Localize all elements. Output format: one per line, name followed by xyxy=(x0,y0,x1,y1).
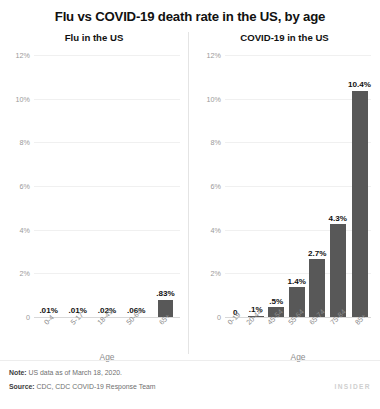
x-tick-label: 55-64 xyxy=(288,320,309,350)
note-text: US data as of March 18, 2020. xyxy=(27,369,122,376)
bars-covid: 0.1%.5%1.4%2.7%4.3%10.4% xyxy=(225,56,371,318)
source-text: CDC, CDC COVID-19 Response Team xyxy=(35,383,156,390)
y-tick-label: 0 xyxy=(217,314,221,322)
chart-panel-covid: COVID-19 in the US 02%4%6%8%10%12% 0.1%.… xyxy=(189,30,380,360)
charts-container: Flu in the US 02%4%6%8%10%12% .01%.01%.0… xyxy=(0,30,380,360)
chart-subtitle-flu: Flu in the US xyxy=(0,30,188,44)
bar-group[interactable]: 0 xyxy=(225,56,246,318)
bar-group[interactable]: .06% xyxy=(122,56,151,318)
bar-value-label: 2.7% xyxy=(308,249,326,258)
y-tick-label: 12% xyxy=(16,52,30,60)
bar-group[interactable]: 2.7% xyxy=(307,56,328,318)
bar-group[interactable]: .1% xyxy=(246,56,267,318)
x-tick-label: 18-49 xyxy=(92,320,121,350)
y-tick-label: 8% xyxy=(20,139,30,147)
x-tick-label: 5-17 xyxy=(63,320,92,350)
bar[interactable] xyxy=(330,224,346,318)
x-tick-label: 85+ xyxy=(350,320,371,350)
bar-group[interactable]: .5% xyxy=(266,56,287,318)
bar-group[interactable]: .83% xyxy=(151,56,180,318)
bar-group[interactable]: 1.4% xyxy=(287,56,308,318)
note-label: Note: xyxy=(9,369,27,376)
y-tick-label: 6% xyxy=(211,183,221,191)
bar-group[interactable]: .01% xyxy=(63,56,92,318)
x-tick-label: 65-74 xyxy=(308,320,329,350)
y-tick-label: 10% xyxy=(207,96,221,104)
bar[interactable] xyxy=(352,91,368,318)
y-tick-label: 4% xyxy=(20,227,30,235)
source-line: Source: CDC, CDC COVID-19 Response Team xyxy=(9,382,156,391)
note-line: Note: US data as of March 18, 2020. xyxy=(9,368,122,377)
chart-panel-flu: Flu in the US 02%4%6%8%10%12% .01%.01%.0… xyxy=(0,30,188,360)
chart-subtitle-covid: COVID-19 in the US xyxy=(189,30,380,44)
bar-group[interactable]: .02% xyxy=(92,56,121,318)
bar-value-label: .5% xyxy=(269,297,283,306)
y-tick-label: 0 xyxy=(26,314,30,322)
x-tick-label: 0-4 xyxy=(34,320,63,350)
insider-logo: INSIDER xyxy=(334,382,371,391)
x-tick-label: 75-84 xyxy=(329,320,350,350)
bars-flu: .01%.01%.02%.06%.83% xyxy=(34,56,180,318)
source-label: Source: xyxy=(9,383,35,390)
plot-area-covid: 02%4%6%8%10%12% 0.1%.5%1.4%2.7%4.3%10.4% xyxy=(225,56,371,318)
x-axis-categories-flu: 0-45-1718-4950-6465+ xyxy=(34,320,180,350)
page-title: Flu vs COVID-19 death rate in the US, by… xyxy=(0,0,380,24)
bar-value-label: 4.3% xyxy=(329,214,347,223)
x-tick-label: 65+ xyxy=(151,320,180,350)
y-tick-label: 2% xyxy=(20,270,30,278)
y-tick-label: 6% xyxy=(20,183,30,191)
x-tick-label: 20-44 xyxy=(246,320,267,350)
y-tick-label: 2% xyxy=(211,270,221,278)
y-tick-label: 10% xyxy=(16,96,30,104)
x-axis-categories-covid: 0-1920-4445-5455-6465-7475-8485+ xyxy=(225,320,371,350)
bar-group[interactable]: 4.3% xyxy=(328,56,349,318)
x-tick-label: 45-54 xyxy=(267,320,288,350)
x-tick-label: 0-19 xyxy=(225,320,246,350)
plot-area-flu: 02%4%6%8%10%12% .01%.01%.02%.06%.83% xyxy=(34,56,180,318)
bar-value-label: 1.4% xyxy=(288,277,306,286)
y-tick-label: 4% xyxy=(211,227,221,235)
y-tick-label: 8% xyxy=(211,139,221,147)
x-tick-label: 50-64 xyxy=(122,320,151,350)
bar-group[interactable]: .01% xyxy=(34,56,63,318)
bar-value-label: .83% xyxy=(156,289,174,298)
footer: Note: US data as of March 18, 2020. Sour… xyxy=(0,360,380,409)
y-tick-label: 12% xyxy=(207,52,221,60)
bar-group[interactable]: 10.4% xyxy=(348,56,371,318)
bar-value-label: 10.4% xyxy=(348,80,371,89)
